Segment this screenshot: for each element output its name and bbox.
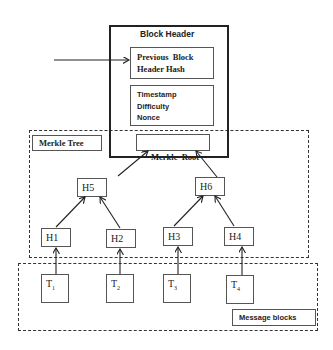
arrow-h5-to-root [118, 151, 148, 176]
arrow-h4-to-h6 [215, 196, 234, 226]
arrow-h3-to-h6 [174, 196, 203, 226]
arrow-h6-to-root [196, 151, 217, 177]
arrows-layer [0, 0, 333, 350]
arrow-h2-to-h5 [100, 197, 120, 228]
arrow-h1-to-h5 [56, 197, 85, 227]
